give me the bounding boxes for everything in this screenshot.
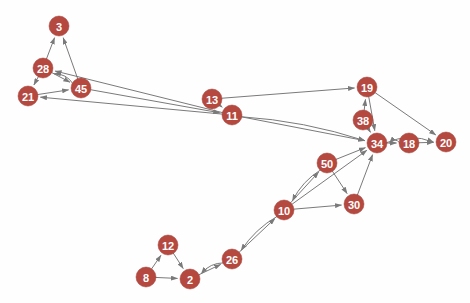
node-circle-19[interactable] — [357, 77, 377, 97]
edge-21-45 — [37, 90, 69, 95]
node-circle-11[interactable] — [222, 105, 242, 125]
edge-45-11 — [90, 90, 220, 113]
graph-node-38[interactable]: 38 — [353, 110, 373, 130]
graph-node-12[interactable]: 12 — [158, 235, 178, 255]
edge-19-20 — [374, 92, 435, 135]
graph-node-28[interactable]: 28 — [33, 58, 53, 78]
edge-8-2 — [155, 277, 178, 278]
graph-node-3[interactable]: 3 — [49, 16, 69, 36]
edge-10-30 — [293, 205, 342, 209]
node-circle-20[interactable] — [436, 132, 456, 152]
node-circle-30[interactable] — [344, 194, 364, 214]
node-circle-26[interactable] — [222, 249, 242, 269]
network-graph-canvas: 328214513111938341820503010261282 — [0, 0, 470, 303]
node-circle-50[interactable] — [317, 153, 337, 173]
node-circle-12[interactable] — [158, 235, 178, 255]
edge-38-19 — [364, 99, 365, 111]
graph-node-45[interactable]: 45 — [71, 78, 91, 98]
graph-node-19[interactable]: 19 — [357, 77, 377, 97]
graph-node-2[interactable]: 2 — [180, 269, 200, 289]
node-circle-38[interactable] — [353, 110, 373, 130]
edge-30-34 — [357, 155, 372, 196]
edge-28-21 — [34, 76, 39, 85]
graph-node-26[interactable]: 26 — [222, 249, 242, 269]
edge-8-12 — [151, 255, 161, 269]
node-circle-13[interactable] — [202, 89, 222, 109]
edge-12-2 — [173, 253, 183, 269]
node-circle-28[interactable] — [33, 58, 53, 78]
network-graph-svg: 328214513111938341820503010261282 — [0, 0, 470, 303]
nodes-layer: 328214513111938341820503010261282 — [18, 16, 456, 289]
node-circle-21[interactable] — [18, 86, 38, 106]
graph-node-18[interactable]: 18 — [399, 133, 419, 153]
node-circle-34[interactable] — [367, 133, 387, 153]
edge-28-3 — [46, 38, 54, 60]
edge-11-34 — [241, 117, 365, 141]
edge-50-34 — [335, 148, 365, 160]
node-circle-45[interactable] — [71, 78, 91, 98]
node-circle-3[interactable] — [49, 16, 69, 36]
node-circle-2[interactable] — [180, 269, 200, 289]
edges-layer — [34, 38, 436, 279]
graph-node-50[interactable]: 50 — [317, 153, 337, 173]
edge-26-10 — [239, 219, 275, 253]
graph-node-13[interactable]: 13 — [202, 89, 222, 109]
node-circle-8[interactable] — [136, 267, 156, 287]
graph-node-34[interactable]: 34 — [367, 133, 387, 153]
graph-node-21[interactable]: 21 — [18, 86, 38, 106]
edge-13-19 — [221, 88, 355, 98]
node-circle-18[interactable] — [399, 133, 419, 153]
graph-node-20[interactable]: 20 — [436, 132, 456, 152]
graph-node-8[interactable]: 8 — [136, 267, 156, 287]
node-circle-10[interactable] — [274, 200, 294, 220]
graph-node-11[interactable]: 11 — [222, 105, 242, 125]
graph-node-10[interactable]: 10 — [274, 200, 294, 220]
graph-node-30[interactable]: 30 — [344, 194, 364, 214]
